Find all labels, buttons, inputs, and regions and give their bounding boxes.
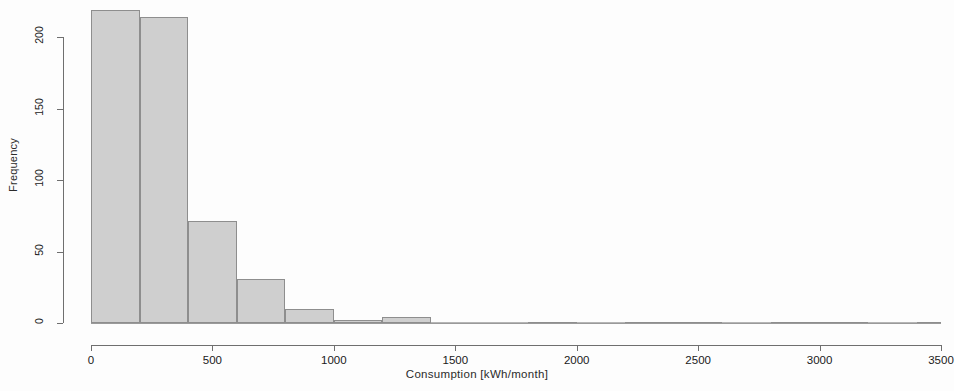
x-axis-tick-label: 500 [182, 354, 242, 366]
x-axis-tick-label: 1000 [304, 354, 364, 366]
x-axis-tick [212, 345, 213, 351]
x-axis-tick [577, 345, 578, 351]
y-axis-tick [57, 109, 63, 110]
histogram-bar [91, 10, 140, 323]
y-axis-tick [57, 252, 63, 253]
x-axis-tick-label: 1500 [425, 354, 485, 366]
x-axis-tick [91, 345, 92, 351]
x-axis-line [91, 345, 941, 346]
x-axis-tick [455, 345, 456, 351]
plot-baseline [91, 323, 941, 324]
y-axis-tick [57, 180, 63, 181]
y-axis-tick [57, 323, 63, 324]
y-axis-tick-label: 150 [26, 101, 52, 113]
y-axis-line [63, 37, 64, 323]
x-axis-tick [698, 345, 699, 351]
histogram-bar [140, 17, 189, 323]
x-axis-tick [941, 345, 942, 351]
x-axis-tick-label: 0 [61, 354, 121, 366]
x-axis-tick-label: 2500 [668, 354, 728, 366]
histogram-bar [188, 221, 237, 323]
y-axis-tick-label: 50 [26, 244, 52, 256]
x-axis-label: Consumption [kWh/month] [0, 368, 954, 380]
histogram-bar [237, 279, 286, 323]
histogram-bar [285, 309, 334, 323]
x-axis-tick-label: 3000 [790, 354, 850, 366]
x-axis-tick-label: 2000 [547, 354, 607, 366]
y-axis-tick [57, 37, 63, 38]
y-axis-tick-label: 200 [26, 29, 52, 41]
y-axis-tick-label: 0 [26, 315, 52, 327]
x-axis-tick-label: 3500 [911, 354, 959, 366]
y-axis-tick-label: 100 [26, 172, 52, 184]
x-axis-tick [334, 345, 335, 351]
x-axis-label-text: Consumption [kWh/month] [406, 368, 548, 380]
x-axis-tick [820, 345, 821, 351]
